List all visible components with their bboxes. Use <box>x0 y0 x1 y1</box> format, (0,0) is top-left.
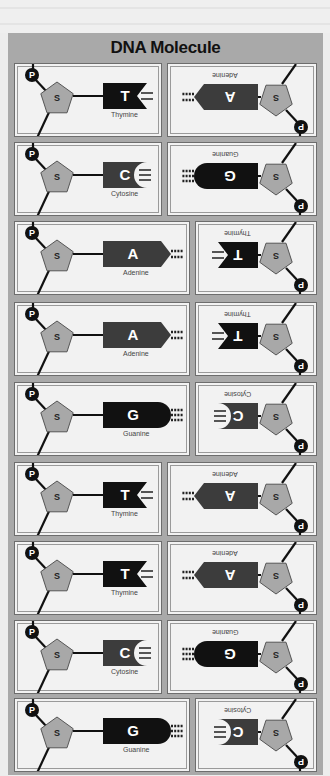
phosphate-label: P <box>25 226 39 240</box>
sugar-label: S <box>51 251 63 261</box>
base-pair-row: PSGGuaninePSCCytosine <box>14 382 317 456</box>
sugar-label: S <box>270 251 282 261</box>
base-letter: A <box>220 566 240 584</box>
base-name-label: Thymine <box>111 111 138 118</box>
phosphate-label: P <box>25 147 39 161</box>
backbone-line <box>282 303 296 323</box>
base-letter: A <box>220 487 240 505</box>
phosphate-label: P <box>294 439 308 453</box>
left-strand-panel: PSCCytosine <box>14 620 162 694</box>
base-name-label: Guanine <box>123 746 149 753</box>
right-strand-panel: PSCCytosine <box>195 382 317 456</box>
backbone-line <box>282 64 296 84</box>
left-strand-panel: PSCCytosine <box>14 142 162 216</box>
dna-molecule-figure: DNA Molecule PSTThyminePSAAdeninePSCCyto… <box>8 33 323 775</box>
base-name-label: Thymine <box>111 589 138 596</box>
base-pair-row: PSAAdeninePSTThymine <box>14 302 317 376</box>
base-letter: C <box>115 166 135 184</box>
phosphate-label: P <box>294 278 308 292</box>
base-letter: T <box>115 565 135 583</box>
base-name-label: Adenine <box>123 269 149 276</box>
base-name-label: Adenine <box>123 350 149 357</box>
phosphate-label: P <box>294 199 308 213</box>
base-pair-row: PSCCytosinePSGGuanine <box>14 620 317 694</box>
base-letter: T <box>228 327 248 345</box>
figure-title: DNA Molecule <box>8 33 323 61</box>
phosphate-label: P <box>294 598 308 612</box>
base-name-label: Adenine <box>212 550 238 557</box>
base-letter: A <box>123 326 143 344</box>
sugar-label: S <box>270 172 282 182</box>
right-strand-panel: PSAAdenine <box>167 63 317 137</box>
sugar-label: S <box>270 332 282 342</box>
base-name-label: Adenine <box>212 471 238 478</box>
base-letter: T <box>115 87 135 105</box>
left-strand-panel: PSTThymine <box>14 63 162 137</box>
base-name-label: Cytosine <box>111 668 138 675</box>
phosphate-label: P <box>294 519 308 533</box>
sugar-label: S <box>270 571 282 581</box>
sugar-label: S <box>51 571 63 581</box>
base-letter: G <box>123 406 143 424</box>
base-letter: T <box>115 486 135 504</box>
right-strand-panel: PSAAdenine <box>167 541 317 615</box>
sugar-label: S <box>270 492 282 502</box>
backbone-line <box>282 542 296 562</box>
right-strand-panel: PSCCytosine <box>195 698 317 772</box>
sugar-label: S <box>51 492 63 502</box>
phosphate-label: P <box>25 625 39 639</box>
phosphate-label: P <box>294 120 308 134</box>
phosphate-label: P <box>294 755 308 769</box>
base-letter: T <box>228 246 248 264</box>
base-name-label: Cytosine <box>224 707 251 714</box>
base-name-label: Adenine <box>212 72 238 79</box>
left-strand-panel: PSAAdenine <box>14 302 190 376</box>
sugar-label: S <box>51 93 63 103</box>
phosphate-label: P <box>25 387 39 401</box>
base-pair-row: PSGGuaninePSCCytosine <box>14 698 317 772</box>
base-pair-row: PSCCytosinePSGGuanine <box>14 142 317 216</box>
sugar-label: S <box>270 650 282 660</box>
phosphate-label: P <box>294 677 308 691</box>
base-letter: G <box>220 167 240 185</box>
phosphate-label: P <box>25 546 39 560</box>
base-letter: C <box>228 407 248 425</box>
sugar-label: S <box>51 332 63 342</box>
base-name-label: Guanine <box>123 430 149 437</box>
backbone-line <box>282 143 296 163</box>
left-strand-panel: PSAAdenine <box>14 221 190 295</box>
base-pair-row: PSTThyminePSAAdenine <box>14 63 317 137</box>
left-strand-panel: PSTThymine <box>14 541 162 615</box>
sugar-label: S <box>51 650 63 660</box>
right-strand-panel: PSGGuanine <box>167 620 317 694</box>
backbone-line <box>282 699 296 719</box>
right-strand-panel: PSTThymine <box>195 302 317 376</box>
base-name-label: Guanine <box>212 151 238 158</box>
base-pair-row: PSTThyminePSAAdenine <box>14 462 317 536</box>
base-name-label: Cytosine <box>224 391 251 398</box>
phosphate-label: P <box>25 467 39 481</box>
left-strand-panel: PSTThymine <box>14 462 162 536</box>
base-name-label: Thymine <box>111 510 138 517</box>
base-pair-row: PSTThyminePSAAdenine <box>14 541 317 615</box>
left-strand-panel: PSGGuanine <box>14 382 190 456</box>
sugar-label: S <box>270 412 282 422</box>
left-strand-panel: PSGGuanine <box>14 698 190 772</box>
right-strand-panel: PSGGuanine <box>167 142 317 216</box>
sugar-label: S <box>51 172 63 182</box>
base-name-label: Thymine <box>224 311 251 318</box>
right-strand-panel: PSTThymine <box>195 221 317 295</box>
phosphate-label: P <box>25 307 39 321</box>
phosphate-label: P <box>25 68 39 82</box>
sugar-label: S <box>270 93 282 103</box>
phosphate-label: P <box>294 359 308 373</box>
base-name-label: Guanine <box>212 629 238 636</box>
right-strand-panel: PSAAdenine <box>167 462 317 536</box>
base-name-label: Thymine <box>224 230 251 237</box>
base-letter: C <box>115 644 135 662</box>
base-letter: G <box>220 645 240 663</box>
backbone-line <box>282 463 296 483</box>
background-page-text <box>0 0 330 33</box>
base-letter: A <box>220 88 240 106</box>
backbone-line <box>282 621 296 641</box>
